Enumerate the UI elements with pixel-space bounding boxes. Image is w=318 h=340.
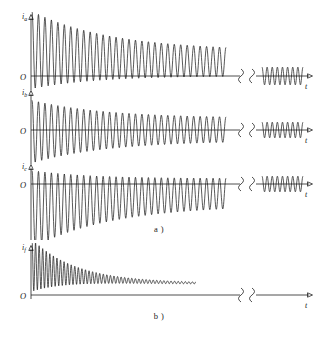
origin-label-ib: O	[20, 126, 26, 136]
axis-label-ia: ia	[22, 12, 27, 22]
axis-break-if	[239, 288, 255, 302]
axis-break-ic	[239, 177, 255, 191]
figure-container: ia O t ib O t	[0, 0, 318, 340]
plot-ia	[0, 12, 318, 90]
time-axis-label-ic: t	[305, 190, 307, 199]
panel-ia: ia O t	[0, 12, 318, 90]
axes-ib	[29, 91, 313, 165]
time-axis-label-ib: t	[305, 136, 307, 145]
origin-label-ic: O	[20, 180, 26, 190]
waveform-ib	[32, 100, 226, 162]
panel-if: if O t	[0, 243, 318, 309]
origin-label-if: O	[20, 291, 26, 301]
axis-break-ia	[239, 69, 255, 83]
plot-ib	[0, 88, 318, 164]
axes-ia	[29, 15, 313, 91]
plot-if	[0, 243, 318, 309]
axes-if	[29, 246, 313, 300]
time-axis-label-if: t	[305, 301, 307, 310]
caption-b: b )	[0, 311, 318, 321]
origin-label-ia: O	[20, 72, 26, 82]
caption-a: a )	[0, 224, 318, 234]
waveform-ia	[32, 12, 226, 88]
panel-ib: ib O t	[0, 88, 318, 164]
axis-label-ib: ib	[22, 88, 27, 98]
axis-label-if: if	[22, 243, 26, 253]
axis-break-ib	[239, 123, 255, 137]
axis-label-ic: ic	[22, 162, 27, 172]
waveform-if	[32, 243, 196, 291]
